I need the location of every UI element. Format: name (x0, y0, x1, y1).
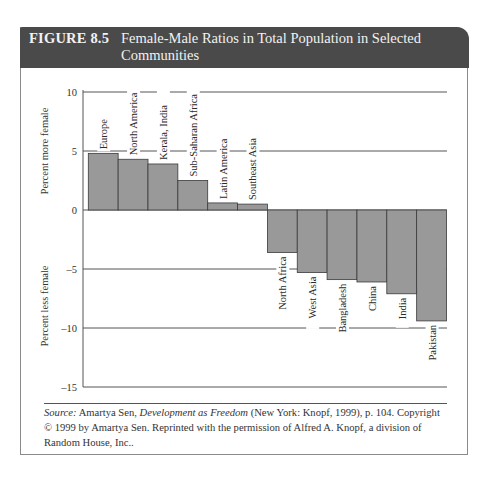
category-label-text: North Africa (277, 256, 288, 310)
bar-pakistan (417, 210, 447, 321)
y-axis-title-bottom: Percent less female (39, 265, 50, 346)
category-label-text: Southeast Asia (247, 138, 258, 200)
category-label: North America (127, 80, 140, 157)
y-axis-title-top: Percent more female (39, 107, 50, 194)
y-tick-label: –10 (60, 323, 77, 334)
bar-north-africa (267, 210, 297, 252)
bar-india (387, 210, 417, 294)
category-label: Bangladesh (336, 282, 349, 342)
category-label: China (366, 284, 379, 316)
category-label: India (396, 296, 409, 328)
category-label: Southeast Asia (246, 120, 259, 202)
category-label-text: Latin America (218, 138, 229, 199)
y-tick-label: 10 (67, 87, 78, 98)
bar-west-asia (297, 210, 327, 273)
source-label: Source: (44, 407, 77, 418)
source-book-title: Development as Freedom (140, 407, 248, 418)
bar-latin-america (208, 203, 238, 210)
y-tick-label: –15 (60, 382, 77, 393)
bar-north-america (118, 159, 148, 210)
category-label: Kerala, India (157, 85, 170, 162)
category-label: West Asia (306, 275, 319, 329)
category-label: Latin America (217, 124, 230, 201)
category-label-text: Kerala, India (158, 105, 169, 160)
bar-sub-saharan-africa (178, 181, 208, 211)
category-label-text: West Asia (307, 276, 318, 318)
category-label-text: China (367, 286, 378, 311)
category-label-text: Europe (98, 119, 109, 150)
category-label-text: India (397, 297, 408, 319)
bar-china (357, 210, 387, 282)
category-label-text: Bangladesh (337, 283, 348, 333)
category-label: North Africa (276, 254, 289, 325)
y-tick-label: –5 (66, 264, 78, 275)
source-author: Amartya Sen, (77, 407, 140, 418)
source-note: Source: Amartya Sen, Development as Free… (44, 405, 449, 450)
category-label: Sub-Saharan Africa (187, 74, 200, 179)
bar-europe (88, 153, 118, 210)
category-label-text: Sub-Saharan Africa (188, 94, 199, 177)
bar-bangladesh (327, 210, 357, 280)
category-label: Pakistan (426, 323, 439, 372)
bar-kerala-india (148, 164, 178, 210)
category-label-text: North America (128, 92, 139, 155)
category-label: Europe (97, 114, 110, 152)
source-divider (44, 403, 447, 404)
category-label-text: Pakistan (427, 324, 438, 360)
y-tick-label: 5 (72, 146, 77, 157)
y-tick-label: 0 (72, 205, 77, 216)
bar-southeast-asia (238, 204, 268, 210)
